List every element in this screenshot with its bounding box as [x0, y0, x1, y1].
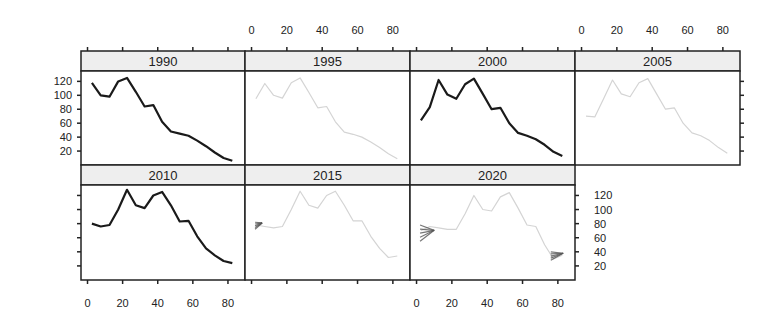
x-tick-label: 20 — [611, 24, 623, 36]
x-tick-label: 20 — [281, 24, 293, 36]
strip-label: 1995 — [313, 54, 342, 69]
y-tick-label: 80 — [60, 103, 72, 115]
panel-1995: 1995 — [245, 51, 410, 165]
y-tick-label: 20 — [60, 145, 72, 157]
y-tick-label: 40 — [594, 246, 606, 258]
y-tick-label: 60 — [594, 232, 606, 244]
strip-label: 1990 — [149, 54, 178, 69]
y-tick-label: 20 — [594, 260, 606, 272]
x-tick-label: 80 — [222, 297, 234, 309]
x-tick-label: 20 — [446, 297, 458, 309]
strip-label: 2005 — [643, 54, 672, 69]
panel-2015: 2015 — [245, 165, 410, 280]
y-tick-label: 100 — [594, 204, 612, 216]
x-tick-label: 0 — [413, 297, 419, 309]
y-tick-label: 40 — [60, 131, 72, 143]
strip-label: 2000 — [478, 54, 507, 69]
plot-area — [245, 185, 410, 280]
x-tick-label: 0 — [578, 24, 584, 36]
x-tick-label: 0 — [248, 24, 254, 36]
x-tick-label: 0 — [84, 297, 90, 309]
panel-2005: 2005 — [575, 51, 740, 165]
strip-label: 2015 — [313, 168, 342, 183]
x-tick-label: 60 — [681, 24, 693, 36]
trellis-chart: 1990199520002005201020152020020406080020… — [0, 0, 784, 330]
plot-area — [410, 71, 575, 165]
x-tick-label: 80 — [387, 24, 399, 36]
x-tick-label: 40 — [152, 297, 164, 309]
y-tick-label: 120 — [54, 75, 72, 87]
panel-2020: 2020 — [410, 165, 575, 280]
y-tick-label: 80 — [594, 218, 606, 230]
panel-2000: 2000 — [410, 51, 575, 165]
x-tick-label: 60 — [187, 297, 199, 309]
x-tick-label: 60 — [351, 24, 363, 36]
x-tick-label: 40 — [481, 297, 493, 309]
y-tick-label: 60 — [60, 117, 72, 129]
x-tick-label: 80 — [552, 297, 564, 309]
x-tick-label: 60 — [516, 297, 528, 309]
plot-area — [410, 185, 575, 280]
plot-area — [81, 71, 245, 165]
x-tick-label: 80 — [717, 24, 729, 36]
strip-label: 2010 — [149, 168, 178, 183]
y-tick-label: 120 — [594, 189, 612, 201]
panel-1990: 1990 — [81, 51, 245, 165]
panel-2010: 2010 — [81, 165, 245, 280]
x-tick-label: 20 — [116, 297, 128, 309]
y-tick-label: 100 — [54, 89, 72, 101]
x-tick-label: 40 — [646, 24, 658, 36]
plot-area — [81, 185, 245, 280]
x-tick-label: 40 — [316, 24, 328, 36]
plot-area — [575, 71, 740, 165]
strip-label: 2020 — [478, 168, 507, 183]
